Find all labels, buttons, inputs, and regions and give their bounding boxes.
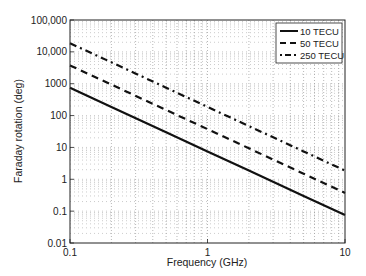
y-tick-label: 1: [61, 174, 67, 185]
x-tick-label: 0.1: [63, 247, 77, 258]
y-axis-label: Faraday rotation (deg): [12, 79, 24, 183]
x-axis-label: Frequency (GHz): [167, 256, 248, 268]
legend-label: 50 TECU: [300, 38, 339, 49]
legend: 10 TECU50 TECU250 TECU: [276, 23, 344, 63]
y-tick-label: 1000: [45, 78, 68, 89]
y-tick-label: 100: [50, 110, 67, 121]
y-axis-ticks: 0.010.1110100100010,000100,000: [31, 15, 74, 249]
x-tick-label: 10: [339, 247, 351, 258]
y-tick-label: 100,000: [31, 15, 68, 26]
y-tick-label: 10,000: [36, 46, 67, 57]
faraday-rotation-chart: 0.010.1110100100010,000100,000 0.1110 Fr…: [0, 0, 366, 276]
y-tick-label: 0.1: [53, 206, 67, 217]
legend-label: 10 TECU: [300, 26, 339, 37]
y-tick-label: 10: [56, 142, 68, 153]
legend-label: 250 TECU: [300, 50, 344, 61]
